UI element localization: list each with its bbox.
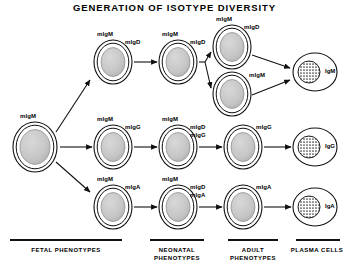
adult-cell-miga-receptor-miga: mIgA [256, 184, 271, 191]
adult-branch-cell-migm-migd [213, 25, 251, 69]
adult-branch-cell-migm-migd-receptor-migm: mIgM [216, 16, 232, 23]
adult-cell-migg-nucleus [231, 133, 255, 162]
arrow-fetal-to-neonatal-top [56, 80, 90, 132]
column-caption-neonatal: NEONATALPHENOTYPES [148, 246, 206, 262]
adult-branch-cell-migm-nucleus [220, 80, 244, 109]
arrow-branch-bot-to-plasma [252, 80, 290, 95]
adult-cell-miga [224, 185, 262, 229]
arrow-fetal-to-neonatal-bot [56, 162, 90, 192]
adult-cell-migm-migd-miga-nucleus [166, 193, 190, 222]
adult-cell-migm-migd [159, 40, 197, 84]
adult-cell-migm-migd-migg-receptor-migg: mIgG [190, 132, 206, 139]
adult-branch-cell-migm-migd-nucleus [220, 33, 244, 62]
neonatal-cell-migm-migg-receptor-migg: mIgG [125, 124, 141, 131]
neonatal-cell-migm-migd [94, 40, 132, 84]
adult-cell-migm-migd-receptor-migm: mIgM [162, 31, 178, 38]
neonatal-cell-migm-miga-receptor-migm: mIgM [97, 176, 113, 183]
adult-cell-migm-migd-migg-receptor-migd: mIgD [190, 124, 205, 131]
column-caption-fetal: FETAL PHENOTYPES [8, 246, 124, 254]
neonatal-cell-migm-migd-receptor-migm: mIgM [97, 31, 113, 38]
neonatal-cell-migm-miga-nucleus [101, 193, 125, 222]
neonatal-cell-migm-miga [94, 185, 132, 229]
plasma-cell-igg-isotype-label: IgG [325, 143, 335, 149]
arrow-branch-top-to-plasma [252, 55, 290, 68]
neonatal-cell-migm-migd-receptor-migd: mIgD [125, 39, 140, 46]
adult-cell-miga-nucleus [231, 193, 255, 222]
adult-branch-cell-migm [213, 72, 251, 116]
adult-cell-migm-migd-miga-receptor-migm: mIgM [162, 176, 178, 183]
neonatal-cell-migm-miga-receptor-miga: mIgA [125, 184, 140, 191]
adult-cell-migg [224, 125, 262, 169]
neonatal-cell-migm-migd-nucleus [101, 48, 125, 77]
plasma-cell-iga-isotype-label: IgA [325, 203, 335, 209]
plasma-cell-igm-nucleus [298, 61, 320, 83]
adult-branch-cell-migm-migd-receptor-migd: mIgD [244, 24, 259, 31]
adult-cell-migm-migd-miga-receptor-miga: mIgA [190, 192, 205, 199]
column-caption-adult: ADULTPHENOTYPES [226, 246, 280, 262]
fetal-cell-migm-receptor-migm: mIgM [20, 113, 36, 120]
adult-cell-migg-receptor-migg: mIgG [256, 124, 272, 131]
column-caption-plasma: PLASMA CELLS [288, 246, 346, 254]
adult-cell-migm-migd-migg-receptor-migm: mIgM [162, 116, 178, 123]
adult-cell-migm-migd-miga-receptor-migd: mIgD [190, 184, 205, 191]
plasma-cell-igm-isotype-label: IgM [325, 68, 335, 74]
adult-cell-migm-migd-migg-nucleus [166, 133, 190, 162]
neonatal-cell-migm-migg-receptor-migm: mIgM [97, 116, 113, 123]
diagram-canvas [0, 0, 349, 270]
isotype-diversity-figure: GENERATION OF ISOTYPE DIVERSITY mIgMmIgM… [0, 0, 349, 270]
fetal-cell-migm-nucleus [20, 130, 50, 165]
arrow-adult-branch-upper [205, 52, 211, 62]
fetal-cell-migm [13, 122, 57, 172]
adult-cell-migm-migd-nucleus [166, 48, 190, 77]
neonatal-cell-migm-migg-nucleus [101, 133, 125, 162]
adult-cell-migm-migd-receptor-migd: mIgD [190, 39, 205, 46]
adult-branch-cell-migm-receptor-migm: mIgM [249, 72, 265, 79]
arrow-adult-branch-lower [205, 62, 211, 88]
plasma-cell-iga-nucleus [298, 196, 320, 218]
neonatal-cell-migm-migg [94, 125, 132, 169]
plasma-cell-igg-nucleus [298, 136, 320, 158]
